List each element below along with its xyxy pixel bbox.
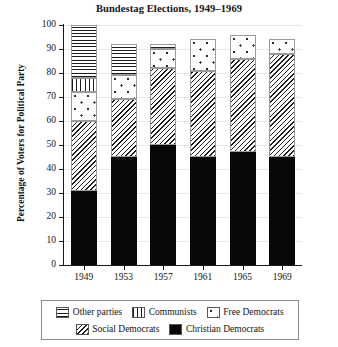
tick-mark bbox=[59, 193, 64, 194]
bar-segment-christian-democrats bbox=[71, 191, 97, 265]
tick-mark bbox=[59, 241, 64, 242]
bar-segment-social-democrats bbox=[269, 54, 295, 157]
bar-segment-free-democrats bbox=[111, 75, 137, 99]
bar-segment-free-democrats bbox=[150, 49, 176, 68]
y-tick-label: 10 bbox=[30, 234, 56, 247]
bar-segment-social-democrats bbox=[230, 59, 256, 153]
x-tick-label: 1969 bbox=[262, 272, 302, 282]
gridline bbox=[64, 265, 302, 266]
x-tick-label: 1953 bbox=[104, 272, 144, 282]
y-axis-title: Percentage of Voters for Political Party bbox=[16, 28, 26, 258]
gridline bbox=[64, 49, 302, 50]
tick-mark bbox=[59, 73, 64, 74]
y-tick-label: 80 bbox=[30, 66, 56, 79]
legend-label: Other parties bbox=[73, 307, 122, 318]
y-tick-label: 60 bbox=[30, 114, 56, 127]
gridline bbox=[64, 217, 302, 218]
tick-mark bbox=[59, 25, 64, 26]
tick-mark bbox=[59, 217, 64, 218]
bar-segment-social-democrats bbox=[111, 99, 137, 157]
bar-1949 bbox=[71, 25, 97, 265]
chart-legend: Other partiesCommunistsFree DemocratsSoc… bbox=[41, 300, 299, 340]
legend-item-free-democrats: Free Democrats bbox=[207, 307, 284, 318]
tick-mark bbox=[59, 265, 64, 266]
legend-label: Free Democrats bbox=[223, 307, 283, 318]
gridline bbox=[64, 121, 302, 122]
chart-figure: Bundestag Elections, 1949–1969 Percentag… bbox=[0, 0, 338, 347]
bar-1965 bbox=[230, 25, 256, 265]
bar-segment-social-democrats bbox=[71, 121, 97, 191]
legend-item-social-democrats: Social Democrats bbox=[76, 324, 160, 335]
y-tick-label: 90 bbox=[30, 42, 56, 55]
y-tick-label: 20 bbox=[30, 210, 56, 223]
tick-mark bbox=[59, 121, 64, 122]
x-axis-tick bbox=[124, 265, 125, 270]
legend-item-other-parties: Other parties bbox=[56, 307, 122, 318]
bar-segment-christian-democrats bbox=[230, 152, 256, 265]
bar-segment-social-democrats bbox=[150, 68, 176, 145]
x-tick-label: 1957 bbox=[143, 272, 183, 282]
y-tick-label: 30 bbox=[30, 186, 56, 199]
gridline bbox=[64, 97, 302, 98]
bar-segment-free-democrats bbox=[230, 35, 256, 59]
bar-1969 bbox=[269, 25, 295, 265]
x-axis-tick bbox=[282, 265, 283, 270]
gridline bbox=[64, 25, 302, 26]
chart-title: Bundestag Elections, 1949–1969 bbox=[0, 3, 338, 14]
bar-segment-other-parties bbox=[111, 44, 137, 75]
legend-swatch bbox=[169, 324, 182, 335]
legend-row: Social DemocratsChristian Democrats bbox=[46, 321, 294, 338]
tick-mark bbox=[59, 145, 64, 146]
x-axis-tick bbox=[243, 265, 244, 270]
legend-item-communists: Communists bbox=[132, 307, 197, 318]
x-axis-tick bbox=[163, 265, 164, 270]
bar-1961 bbox=[190, 25, 216, 265]
gridline bbox=[64, 145, 302, 146]
gridline bbox=[64, 193, 302, 194]
legend-label: Social Democrats bbox=[92, 324, 159, 335]
legend-label: Christian Democrats bbox=[186, 324, 264, 335]
x-axis-tick bbox=[84, 265, 85, 270]
bar-segment-communists bbox=[71, 78, 97, 92]
tick-mark bbox=[59, 169, 64, 170]
bar-segment-social-democrats bbox=[190, 71, 216, 157]
gridline bbox=[64, 169, 302, 170]
legend-label: Communists bbox=[149, 307, 197, 318]
x-axis-tick bbox=[203, 265, 204, 270]
x-tick-label: 1949 bbox=[64, 272, 104, 282]
legend-swatch bbox=[56, 307, 69, 318]
x-tick-label: 1961 bbox=[183, 272, 223, 282]
bar-segment-christian-democrats bbox=[111, 157, 137, 265]
gridline bbox=[64, 73, 302, 74]
y-tick-label: 50 bbox=[30, 138, 56, 151]
y-tick-label: 0 bbox=[30, 258, 56, 271]
y-tick-label: 100 bbox=[30, 18, 56, 31]
bar-1953 bbox=[111, 25, 137, 265]
bar-segment-free-democrats bbox=[269, 39, 295, 53]
legend-swatch bbox=[207, 307, 220, 318]
plot-area: 0102030405060708090100 bbox=[64, 25, 302, 265]
tick-mark bbox=[59, 97, 64, 98]
legend-row: Other partiesCommunistsFree Democrats bbox=[46, 304, 294, 321]
bar-segment-other-parties bbox=[150, 44, 176, 49]
legend-item-christian-democrats: Christian Democrats bbox=[169, 324, 264, 335]
legend-swatch bbox=[76, 324, 89, 335]
bar-1957 bbox=[150, 25, 176, 265]
bar-segment-other-parties bbox=[71, 25, 97, 78]
bar-segment-christian-democrats bbox=[190, 157, 216, 265]
gridline bbox=[64, 241, 302, 242]
bar-segment-free-democrats bbox=[71, 92, 97, 121]
y-tick-label: 40 bbox=[30, 162, 56, 175]
bar-segment-christian-democrats bbox=[269, 157, 295, 265]
y-tick-label: 70 bbox=[30, 90, 56, 103]
bar-segment-free-democrats bbox=[190, 39, 216, 70]
x-tick-label: 1965 bbox=[223, 272, 263, 282]
bar-segment-christian-democrats bbox=[150, 145, 176, 265]
legend-swatch bbox=[132, 307, 145, 318]
tick-mark bbox=[59, 49, 64, 50]
